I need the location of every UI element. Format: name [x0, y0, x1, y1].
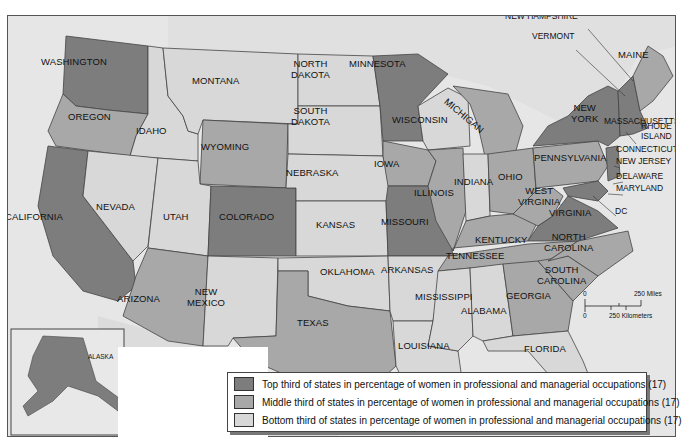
callout-rhode-island: RHODE ISLAND — [641, 121, 672, 141]
label-washington: WASHINGTON — [41, 56, 107, 67]
callout-vermont: VERMONT — [532, 31, 575, 41]
label-north-dakota: NORTH DAKOTA — [291, 58, 330, 80]
legend: Top third of states in percentage of wom… — [227, 372, 647, 432]
alaska-inset — [11, 329, 124, 435]
label-missouri: MISSOURI — [381, 216, 429, 227]
label-wisconsin: WISCONSIN — [392, 114, 448, 125]
legend-label-top: Top third of states in percentage of wom… — [262, 379, 666, 390]
label-south-carolina: SOUTH CAROLINA — [537, 264, 586, 286]
label-ohio: OHIO — [498, 171, 523, 182]
label-south-dakota: SOUTH DAKOTA — [291, 105, 330, 127]
label-montana: MONTANA — [192, 75, 240, 86]
legend-label-middle: Middle third of states in percentage of … — [262, 397, 679, 408]
legend-item-middle: Middle third of states in percentage of … — [234, 394, 679, 410]
label-kansas: KANSAS — [316, 219, 355, 230]
label-pennsylvania: PENNSYLVANIA — [534, 152, 607, 163]
label-alaska: ALASKA — [88, 353, 113, 360]
scale-zero-km: 0 — [583, 312, 587, 319]
label-tennessee: TENNESSEE — [446, 250, 504, 261]
legend-swatch-top — [234, 377, 254, 391]
label-nevada: NEVADA — [96, 201, 135, 212]
label-new-mexico: NEW MEXICO — [187, 286, 225, 308]
label-arizona: ARIZONA — [117, 293, 160, 304]
label-louisiana: LOUISIANA — [398, 340, 450, 351]
callout-connecticut: CONNECTICUT — [616, 144, 676, 154]
callout-delaware: DELAWARE — [616, 171, 663, 181]
label-west-virginia: WEST VIRGINIA — [518, 185, 561, 207]
label-idaho: IDAHO — [136, 125, 167, 136]
label-colorado: COLORADO — [219, 211, 274, 222]
label-illinois: ILLINOIS — [414, 187, 454, 198]
label-alabama: ALABAMA — [461, 305, 507, 316]
label-georgia: GEORGIA — [506, 290, 551, 301]
callout-dc: DC — [615, 206, 627, 216]
label-mississippi: MISSISSIPPI — [415, 291, 473, 302]
callout-new-hampshire: NEW HAMPSHIRE — [505, 15, 578, 21]
legend-swatch-middle — [234, 395, 254, 409]
label-north-carolina: NORTH CAROLINA — [544, 231, 593, 253]
label-texas: TEXAS — [297, 317, 329, 328]
scale-bar — [585, 299, 641, 312]
label-arkansas: ARKANSAS — [381, 264, 434, 275]
legend-item-bottom: Bottom third of states in percentage of … — [234, 412, 682, 428]
callout-maryland: MARYLAND — [616, 183, 663, 193]
label-new-york: NEW YORK — [571, 102, 598, 124]
state-washington — [63, 36, 148, 114]
label-virginia: VIRGINIA — [549, 207, 592, 218]
scale-zero-miles: 0 — [583, 290, 587, 297]
callout-new-jersey: NEW JERSEY — [616, 156, 671, 166]
state-indiana — [463, 154, 490, 221]
label-utah: UTAH — [163, 211, 189, 222]
state-wyoming — [200, 120, 288, 188]
label-oklahoma: OKLAHOMA — [320, 266, 375, 277]
label-oregon: OREGON — [68, 111, 111, 122]
label-iowa: IOWA — [374, 158, 399, 169]
label-nebraska: NEBRASKA — [286, 167, 339, 178]
label-maine: MAINE — [618, 49, 649, 60]
legend-item-top: Top third of states in percentage of wom… — [234, 376, 666, 392]
label-florida: FLORIDA — [524, 343, 566, 354]
label-wyoming: WYOMING — [201, 141, 249, 152]
label-minnesota: MINNESOTA — [349, 58, 406, 69]
scale-kilometers: 250 Kilometers — [609, 312, 652, 319]
scale-miles: 250 Miles — [634, 290, 662, 297]
legend-swatch-bottom — [234, 413, 254, 427]
legend-label-bottom: Bottom third of states in percentage of … — [262, 415, 682, 426]
label-california: CALIFORNIA — [7, 211, 63, 222]
label-indiana: INDIANA — [454, 176, 493, 187]
label-kentucky: KENTUCKY — [475, 234, 528, 245]
